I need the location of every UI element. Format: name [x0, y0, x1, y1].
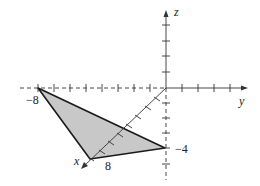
tick-label-x-8: 8: [105, 160, 111, 172]
diagram-svg: [0, 0, 260, 186]
shaded-triangle: [38, 88, 165, 159]
z-axis-label: z: [174, 6, 179, 18]
x-axis-label: x: [74, 155, 79, 167]
tick-label-z-neg4: −4: [175, 143, 188, 155]
y-axis-arrow-icon: [241, 86, 248, 91]
coordinate-diagram: z y x −8 8 −4: [0, 0, 260, 186]
tick-label-y-neg8: −8: [26, 94, 39, 106]
y-axis-label: y: [239, 95, 244, 107]
z-axis-arrow-icon: [164, 10, 169, 17]
